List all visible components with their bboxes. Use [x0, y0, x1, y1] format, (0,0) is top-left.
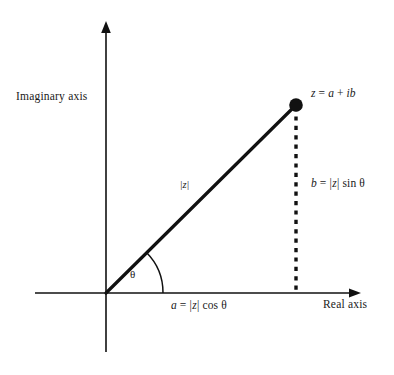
imaginary-component-equals: = [317, 177, 330, 189]
point-z-imaginary-part: ib [347, 87, 356, 99]
angle-theta-label: θ [130, 269, 135, 280]
real-component-equals: = [177, 299, 190, 311]
point-z-label: z = a + ib [311, 88, 356, 100]
real-axis-label: Real axis [323, 299, 367, 311]
imaginary-axis-label: Imaginary axis [16, 91, 87, 103]
imaginary-component-function: sin [340, 177, 360, 189]
real-component-label: a = |z| cos θ [171, 300, 227, 312]
point-z-equals: = [316, 87, 329, 99]
modulus-label: |z| [180, 180, 189, 191]
modulus-right-bar: | [187, 179, 190, 190]
imaginary-component-label: b = |z| sin θ [311, 178, 365, 190]
point-marker [289, 98, 303, 112]
real-component-function: cos [200, 299, 222, 311]
point-z-plus: + [334, 87, 347, 99]
real-component-angle: θ [221, 299, 227, 311]
imaginary-component-angle: θ [359, 177, 365, 189]
